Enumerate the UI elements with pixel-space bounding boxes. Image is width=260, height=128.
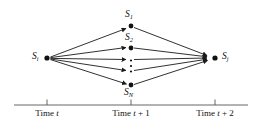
node-source-si	[44, 55, 49, 60]
node-label-si: Si	[32, 52, 39, 62]
figure-canvas: Si Sj S1 S2 SN Time t Time t + 1 Time t …	[0, 0, 260, 128]
edge-smid-lower-to-sj	[134, 59, 207, 70]
node-label-s1: S1	[125, 10, 133, 20]
edge-smid-upper-to-sj	[134, 58, 207, 60]
node-middle-sn	[129, 83, 134, 88]
axis-tick-label-t: Time t	[7, 109, 87, 118]
edge-si-to-sn	[51, 60, 127, 84]
axis-tick-label-t1: Time t + 1	[91, 109, 171, 118]
node-middle-s1	[129, 24, 134, 29]
node-label-sn: SN	[124, 88, 133, 98]
node-label-s2: S2	[125, 33, 133, 43]
node-label-sj: Sj	[222, 52, 229, 62]
edge-si-to-smid-upper	[51, 58, 127, 59]
node-target-sj	[212, 55, 217, 60]
time-axis	[14, 100, 248, 106]
edge-group-fan-out	[51, 29, 127, 85]
edge-sn-to-sj	[134, 61, 208, 85]
edge-s1-to-sj	[134, 28, 207, 56]
axis-tick-label-t2: Time t + 2	[175, 109, 255, 118]
node-middle-s2	[129, 46, 134, 51]
edge-s2-to-sj	[134, 48, 207, 57]
edge-si-to-smid-lower	[51, 59, 127, 71]
vertical-ellipsis-icon	[130, 59, 132, 72]
edge-group-fan-in	[134, 28, 208, 85]
